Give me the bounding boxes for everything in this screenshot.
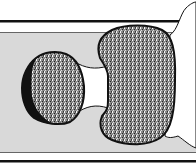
joint-illustration [0, 0, 196, 165]
bottom-thin-line [0, 152, 196, 153]
top-thick-line [0, 20, 196, 23]
bottom-thick-line [0, 160, 196, 163]
large-bone-head [99, 26, 176, 145]
